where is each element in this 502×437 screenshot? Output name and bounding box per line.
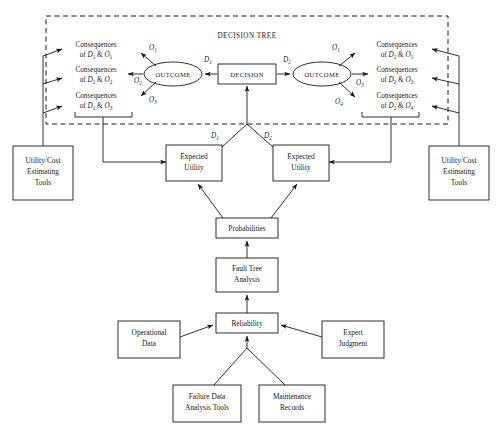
- expert-judgment-line2: Judgment: [339, 339, 369, 348]
- edge-probabilities-to-eu-left: [198, 184, 223, 218]
- utility-cost-tools-left-line2: Estimating: [27, 167, 59, 176]
- outcome-right-label-o1: O1: [332, 44, 340, 53]
- consequence-left-2-line1: Consequences: [75, 66, 116, 74]
- decision-analysis-diagram: DECISION TREE DECISION OUTCOME OUTCOME D…: [0, 0, 502, 437]
- failure-data-line1: Failure Data: [189, 392, 226, 401]
- consequence-left-3-line1: Consequences: [75, 92, 116, 100]
- consequence-left-1-line2: of D1 & O1: [80, 51, 113, 60]
- consequence-right-3-line1: Consequences: [376, 92, 417, 100]
- consequence-right-3-line2: of D2 & O4: [381, 102, 414, 111]
- branch-label-d2-tree: D2: [282, 56, 291, 65]
- outcome-left-label-o2: O2: [134, 77, 142, 86]
- branch-label-d2-subscript: 2: [288, 59, 291, 65]
- edge-eu-left-to-decision: [222, 124, 247, 147]
- maintenance-records-line1: Maintenance: [273, 392, 312, 401]
- utility-cost-tools-left-line1: Utility/Cost: [26, 156, 62, 165]
- edge-tools-left-to-cons1: [43, 49, 62, 56]
- edge-outcome-right-o4: [339, 82, 355, 97]
- outcome-right-label-o4: O4: [335, 98, 343, 107]
- edge-maintenance-records-to-fork: [247, 348, 285, 385]
- fork-label-d1: D1: [210, 132, 219, 141]
- edge-outcome-left-o3: [141, 82, 156, 96]
- outcome-left-label-o1: O1: [149, 44, 157, 53]
- consequence-right-2: Consequences of D2 & O3: [376, 66, 417, 85]
- bracket-consequences-left: [75, 112, 132, 117]
- consequence-right-2-line2: of D2 & O3: [381, 76, 414, 85]
- reliability-label: Reliability: [231, 319, 263, 328]
- failure-data-line2: Analysis Tools: [185, 403, 229, 412]
- edge-failure-data-to-fork: [214, 348, 247, 385]
- consequence-left-3-line2: of D1 & O3: [80, 102, 113, 111]
- edge-operational-data-to-reliability: [180, 325, 213, 337]
- outcome-left-label-o3: O3: [149, 96, 157, 105]
- fault-tree-line1: Fault Tree: [232, 264, 263, 273]
- decision-node-label: DECISION: [230, 71, 264, 78]
- diagram-canvas: DECISION TREE DECISION OUTCOME OUTCOME D…: [0, 0, 502, 437]
- utility-cost-tools-right-line1: Utility/Cost: [442, 156, 478, 165]
- utility-cost-tools-right-line2: Estimating: [443, 167, 475, 176]
- outcome-node-left-label: OUTCOME: [155, 71, 190, 78]
- edge-tools-right-to-cons3: [432, 106, 459, 113]
- consequence-left-2-line2: of D1 & O2: [80, 76, 113, 85]
- outcome-node-right-label: OUTCOME: [304, 71, 339, 78]
- consequence-right-1: Consequences of D2 & O1: [376, 41, 417, 60]
- probabilities-label: Probabilities: [228, 224, 265, 233]
- consequence-right-1-line2: of D2 & O1: [381, 51, 414, 60]
- fork-label-d2: D2: [263, 132, 272, 141]
- utility-cost-tools-left-line3: Tools: [35, 178, 51, 187]
- fault-tree-line2: Analysis: [234, 275, 260, 284]
- expected-utility-left-line1: Expected: [180, 152, 208, 161]
- expected-utility-left-line2: Utility: [184, 163, 204, 172]
- operational-data-line1: Operational: [132, 328, 167, 337]
- consequence-right-3: Consequences of D2 & O4: [376, 92, 417, 111]
- edge-tools-right-to-cons2: [432, 78, 459, 84]
- edge-outcome-right-o1: [339, 53, 355, 66]
- outcome-right-label-o3: O3: [356, 79, 364, 88]
- operational-data-line2: Data: [142, 339, 157, 348]
- expected-utility-right-line1: Expected: [287, 152, 315, 161]
- consequence-left-1-line1: Consequences: [75, 41, 116, 49]
- edge-outcome-left-o1: [141, 53, 156, 66]
- edge-tools-right-to-cons1: [432, 49, 459, 56]
- edge-expert-judgment-to-reliability: [281, 325, 322, 337]
- consequence-left-1: Consequences of D1 & O1: [75, 41, 116, 60]
- expected-utility-right-line2: Utility: [291, 163, 311, 172]
- consequence-left-2: Consequences of D1 & O2: [75, 66, 116, 85]
- branch-label-d1-tree: D1: [203, 56, 212, 65]
- decision-tree-region-label: DECISION TREE: [217, 32, 276, 40]
- expert-judgment-line1: Expert: [343, 328, 364, 337]
- consequence-right-2-line1: Consequences: [376, 66, 417, 74]
- edge-probabilities-to-eu-right: [271, 184, 297, 218]
- branch-label-d1-subscript: 1: [209, 59, 212, 65]
- utility-cost-tools-right-line3: Tools: [451, 178, 467, 187]
- consequence-right-1-line1: Consequences: [376, 41, 417, 49]
- maintenance-records-line2: Records: [280, 403, 304, 412]
- bracket-consequences-right: [362, 112, 419, 117]
- consequence-left-3: Consequences of D1 & O3: [75, 92, 116, 111]
